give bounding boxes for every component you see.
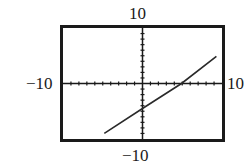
data-line [104,56,216,133]
graph-plot [0,0,250,168]
axes [63,28,222,139]
